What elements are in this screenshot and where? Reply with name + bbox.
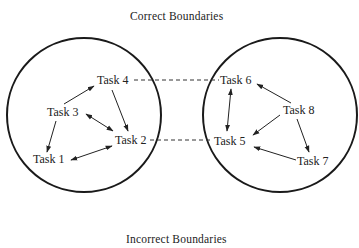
arrow-task4-to-task2 (112, 90, 128, 131)
arrow-task8-to-task7 (297, 119, 309, 152)
arrow-task3-task2-bidirectional (86, 114, 113, 131)
arrow-task3-to-task4 (64, 86, 94, 104)
task-node-6: Task 6 (220, 73, 252, 87)
diagram-title-incorrect-boundaries: Incorrect Boundaries (126, 233, 227, 245)
arrow-task7-to-task5 (254, 147, 296, 160)
task-node-2: Task 2 (115, 133, 147, 147)
boundary-diagram: Task 1 Task 2 Task 3 Task 4 Task 5 Task … (0, 0, 359, 248)
arrow-task6-task5-bidirectional (227, 89, 231, 131)
task-node-1: Task 1 (33, 152, 65, 166)
arrow-task1-task2-bidirectional (71, 146, 112, 160)
arrow-task8-to-task5 (253, 115, 280, 135)
arrow-task3-to-task1 (47, 121, 56, 152)
task-node-4: Task 4 (97, 73, 129, 87)
task-node-7: Task 7 (297, 154, 329, 168)
task-node-3: Task 3 (47, 105, 79, 119)
arrow-task8-to-task6 (257, 84, 291, 103)
task-node-5: Task 5 (214, 134, 246, 148)
task-node-8: Task 8 (283, 103, 315, 117)
left-boundary-circle (7, 38, 161, 192)
